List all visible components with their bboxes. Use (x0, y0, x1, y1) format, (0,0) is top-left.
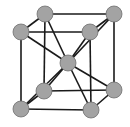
bond-front-top-right-front-bottom-right (90, 32, 91, 110)
atom-back-bottom-right (106, 82, 122, 98)
atom-back-bottom-left (36, 83, 52, 99)
atom-front-top-right (82, 24, 98, 40)
atom-back-top-right (106, 6, 122, 22)
atom-back-top-left (37, 6, 53, 22)
atom-front-bottom-right (83, 102, 99, 118)
bond-back-top-left-back-bottom-left (44, 14, 45, 91)
bond-front-bottom-left-front-bottom-right (21, 109, 91, 110)
bond-back-bottom-left-back-bottom-right (44, 90, 114, 91)
atom-front-bottom-left (13, 101, 29, 117)
atom-front-top-left (13, 24, 29, 40)
atom-body-center (60, 55, 76, 71)
bcc-lattice-diagram (0, 0, 130, 127)
